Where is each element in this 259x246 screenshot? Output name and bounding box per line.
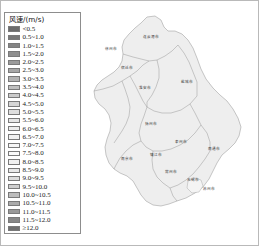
map-panel: 徐州市 连云港市 宿迁市 淮安市 盐城市 扬州市 泰州市 南通市 南京市 镇江市… xyxy=(89,3,258,245)
legend-color-swatch xyxy=(8,176,20,181)
city-label: 淮安市 xyxy=(139,85,151,90)
legend-color-swatch xyxy=(8,226,20,231)
legend-entry-label: 10.0~10.5 xyxy=(23,191,51,199)
legend-color-swatch xyxy=(8,201,20,206)
legend-color-swatch xyxy=(8,151,20,156)
legend-color-swatch xyxy=(8,143,20,148)
legend-entry: 4.5~5.0 xyxy=(5,100,80,108)
legend-entry: 5.0~5.5 xyxy=(5,108,80,116)
legend-entry-label: 6.5~7.0 xyxy=(23,133,44,141)
legend-color-swatch xyxy=(8,184,20,189)
legend-entry: 3.0~3.5 xyxy=(5,75,80,83)
legend-color-swatch xyxy=(8,209,20,214)
jiangsu-province-map: 徐州市 连云港市 宿迁市 淮安市 盐城市 扬州市 泰州市 南通市 南京市 镇江市… xyxy=(89,3,258,245)
legend-entry: 3.5~4.0 xyxy=(5,83,80,91)
legend-entry-label: 10.5~11.0 xyxy=(23,199,51,207)
legend-entry-label: 0.5~1.0 xyxy=(23,33,44,41)
legend-entry: 9.0~9.5 xyxy=(5,174,80,182)
figure-frame: 徐州市 连云港市 宿迁市 淮安市 盐城市 扬州市 泰州市 南通市 南京市 镇江市… xyxy=(0,0,259,246)
legend-color-swatch xyxy=(8,126,20,131)
legend-entry: 7.0~7.5 xyxy=(5,141,80,149)
legend-entry-label: 7.0~7.5 xyxy=(23,141,44,149)
city-label: 南通市 xyxy=(208,146,220,151)
legend-entry-label: 8.5~9.0 xyxy=(23,166,44,174)
legend-color-swatch xyxy=(8,76,20,81)
city-label: 徐州市 xyxy=(105,46,117,51)
legend-color-swatch xyxy=(8,134,20,139)
city-label: 连云港市 xyxy=(143,34,160,39)
legend-entry: 1.5~2.0 xyxy=(5,50,80,58)
legend-entry-label: 5.0~5.5 xyxy=(23,108,44,116)
province-outline xyxy=(94,16,241,206)
legend-color-swatch xyxy=(8,35,20,40)
legend-entry: 11.5~12.0 xyxy=(5,216,80,224)
legend-color-swatch xyxy=(8,101,20,106)
legend-entry-label: 4.0~4.5 xyxy=(23,91,44,99)
legend-entry-label: 7.5~8.0 xyxy=(23,149,44,157)
legend-entry: 0.5~1.0 xyxy=(5,33,80,41)
city-label: 镇江市 xyxy=(150,152,162,157)
legend-entry-label: 1.0~1.5 xyxy=(23,42,44,50)
legend-entry: 2.5~3.0 xyxy=(5,66,80,74)
legend-entry: 10.5~11.0 xyxy=(5,199,80,207)
legend-color-swatch xyxy=(8,109,20,114)
legend-entry-label: 3.0~3.5 xyxy=(23,75,44,83)
city-label: 盐城市 xyxy=(181,79,193,84)
city-label: 苏州市 xyxy=(203,186,215,191)
legend-color-swatch xyxy=(8,60,20,65)
legend-entry-label: 11.0~11.5 xyxy=(23,208,51,216)
legend-entry: 7.5~8.0 xyxy=(5,149,80,157)
legend-color-swatch xyxy=(8,192,20,197)
legend-entry: 10.0~10.5 xyxy=(5,191,80,199)
city-label: 常州市 xyxy=(165,169,177,174)
legend-entry-label: 11.5~12.0 xyxy=(23,216,51,224)
city-label: 南京市 xyxy=(121,156,133,161)
legend-color-swatch xyxy=(8,93,20,98)
legend-color-swatch xyxy=(8,159,20,164)
legend-entry-label: 9.0~9.5 xyxy=(23,174,44,182)
legend-entry-label: 8.0~8.5 xyxy=(23,158,44,166)
legend-entry: <0.5 xyxy=(5,25,80,33)
legend-entry-label: 5.5~6.0 xyxy=(23,116,44,124)
legend-entry: ≥12.0 xyxy=(5,224,80,232)
legend-entry: 4.0~4.5 xyxy=(5,91,80,99)
legend-entry: 6.0~6.5 xyxy=(5,125,80,133)
legend-color-swatch xyxy=(8,217,20,222)
legend-entry: 5.5~6.0 xyxy=(5,116,80,124)
legend-color-swatch xyxy=(8,51,20,56)
legend-entry: 6.5~7.0 xyxy=(5,133,80,141)
legend-entry-label: 1.5~2.0 xyxy=(23,50,44,58)
legend-entry-label: ≥12.0 xyxy=(23,224,39,232)
legend-entry: 8.0~8.5 xyxy=(5,158,80,166)
legend-color-swatch xyxy=(8,85,20,90)
legend-entry: 1.0~1.5 xyxy=(5,42,80,50)
legend-entry: 9.5~10.0 xyxy=(5,183,80,191)
legend-color-swatch xyxy=(8,118,20,123)
legend-entry-label: <0.5 xyxy=(23,25,36,33)
legend-entry-label: 6.0~6.5 xyxy=(23,125,44,133)
legend-title: 风速/(m/s) xyxy=(5,14,80,25)
legend-entry-label: 2.5~3.0 xyxy=(23,66,44,74)
city-label: 泰州市 xyxy=(175,139,187,144)
wind-speed-legend: 风速/(m/s) <0.50.5~1.01.0~1.51.5~2.02.0~2.… xyxy=(4,12,81,234)
legend-entry: 8.5~9.0 xyxy=(5,166,80,174)
city-label: 无锡市 xyxy=(187,177,199,182)
legend-entry-label: 9.5~10.0 xyxy=(23,183,48,191)
legend-entry-list: <0.50.5~1.01.0~1.51.5~2.02.0~2.52.5~3.03… xyxy=(5,25,80,232)
legend-entry-label: 3.5~4.0 xyxy=(23,83,44,91)
legend-color-swatch xyxy=(8,26,20,31)
legend-color-swatch xyxy=(8,168,20,173)
city-label: 扬州市 xyxy=(145,121,157,126)
legend-entry: 11.0~11.5 xyxy=(5,208,80,216)
legend-color-swatch xyxy=(8,68,20,73)
legend-entry-label: 2.0~2.5 xyxy=(23,58,44,66)
province-outline-group xyxy=(94,16,241,206)
legend-color-swatch xyxy=(8,43,20,48)
city-label: 宿迁市 xyxy=(121,65,133,70)
legend-entry: 2.0~2.5 xyxy=(5,58,80,66)
legend-entry-label: 4.5~5.0 xyxy=(23,100,44,108)
